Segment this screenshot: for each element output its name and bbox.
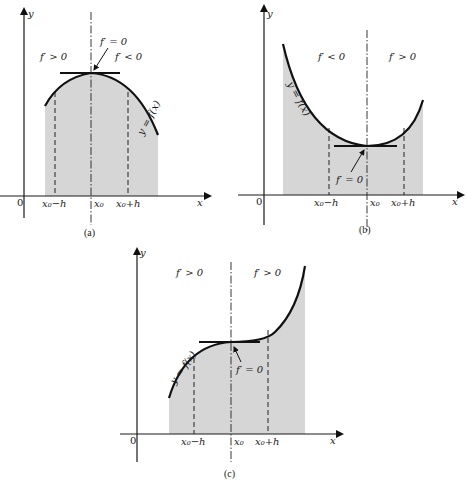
figure-canvas: y x 0 x₀−h x₀ x₀+h f′ > 0 f′ < 0 f′ = 0 …	[0, 0, 467, 486]
origin-label: 0	[130, 435, 136, 446]
region-right-label: f′ < 0	[114, 51, 143, 62]
tick-x0-plus-h: x₀+h	[116, 198, 140, 209]
critical-point-label: f′ = 0	[335, 174, 364, 185]
panel-c: y x 0 x₀−h x₀ x₀+h f′ > 0 f′ > 0 f′ = 0 …	[120, 247, 342, 480]
critical-arrow	[94, 48, 108, 70]
tick-x0: x₀	[94, 198, 104, 209]
tick-x0: x₀	[234, 436, 244, 447]
x-axis-label: x	[330, 435, 336, 446]
critical-point-label: f′ = 0	[99, 36, 128, 47]
x-axis-label: x	[197, 197, 203, 208]
origin-label: 0	[17, 197, 23, 208]
tick-x0-minus-h: x₀−h	[314, 197, 338, 208]
shaded-area	[283, 44, 423, 195]
region-left-label: f′ > 0	[175, 267, 204, 278]
panel-caption: (b)	[359, 224, 371, 236]
critical-point-label: f′ = 0	[235, 364, 264, 375]
region-right-label: f′ > 0	[388, 51, 417, 62]
tick-x0-minus-h: x₀−h	[181, 436, 205, 447]
panel-b: y x 0 x₀−h x₀ x₀+h f′ < 0 f′ > 0 f′ = 0 …	[238, 6, 463, 236]
x-axis-label: x	[452, 196, 458, 207]
y-axis-label: y	[266, 8, 273, 19]
tick-x0-plus-h: x₀+h	[391, 197, 415, 208]
region-left-label: f′ < 0	[317, 51, 346, 62]
y-axis-label: y	[27, 8, 34, 19]
tick-x0-plus-h: x₀+h	[255, 436, 279, 447]
region-left-label: f′ > 0	[39, 51, 68, 62]
origin-label: 0	[256, 196, 262, 207]
tick-x0: x₀	[370, 197, 380, 208]
panel-caption: (c)	[224, 468, 235, 480]
y-axis-label: y	[139, 247, 146, 258]
panel-caption: (a)	[84, 227, 95, 239]
region-right-label: f′ > 0	[253, 267, 282, 278]
panel-a: y x 0 x₀−h x₀ x₀+h f′ > 0 f′ < 0 f′ = 0 …	[0, 8, 210, 239]
tick-x0-minus-h: x₀−h	[42, 198, 66, 209]
